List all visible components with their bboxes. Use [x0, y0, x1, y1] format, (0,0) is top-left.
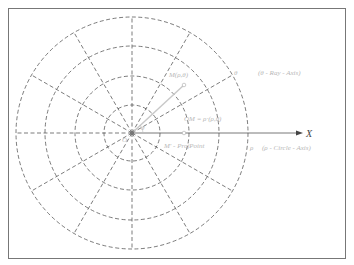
theta-ray-desc: (θ - Ray - Axis) — [258, 69, 301, 77]
projection-label: M' - ProjPoint — [163, 142, 206, 150]
origin-label: O — [122, 136, 127, 144]
rho-circle-label: ρ — [249, 144, 254, 152]
point-m-marker — [182, 83, 186, 87]
om-vector-label: OM = ρ·(ρ,θ) — [184, 115, 222, 123]
labels: M(ρ,θ) θ (θ - Ray - Axis) OM = ρ·(ρ,θ) M… — [122, 69, 312, 152]
point-m-proj-marker — [182, 131, 186, 135]
x-axis-label: X — [305, 128, 313, 139]
frame-border — [9, 9, 346, 259]
om-vector — [130, 83, 186, 135]
origin-marker — [130, 131, 134, 135]
point-m-label: M(ρ,θ) — [168, 71, 189, 79]
theta-ray-label: θ — [234, 69, 238, 77]
x-axis: X — [132, 128, 313, 139]
x-axis-arrow-icon — [296, 131, 303, 136]
angle-label: θ — [141, 124, 145, 132]
rho-circle-desc: (ρ - Circle - Axis) — [262, 144, 312, 152]
polar-diagram: X M(ρ,θ) θ (θ - Ray - Axis) OM = ρ·(ρ,θ)… — [0, 0, 354, 265]
